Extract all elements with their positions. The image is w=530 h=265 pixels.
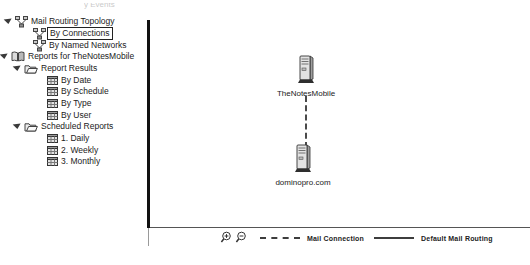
report-icon bbox=[47, 157, 58, 166]
tree-item-label: Mail Routing Topology bbox=[31, 16, 114, 27]
report-icon bbox=[47, 87, 58, 96]
server-node-dominopro[interactable]: dominopro.com bbox=[243, 143, 363, 187]
tree-item-reports-for-thenotesmobile[interactable]: Reports for TheNotesMobile bbox=[0, 51, 134, 62]
mail-connection-line bbox=[305, 96, 307, 148]
tree-item-label: 1. Daily bbox=[61, 133, 89, 144]
report-icon bbox=[47, 134, 58, 143]
server-icon bbox=[246, 54, 366, 88]
twisty-expanded-icon[interactable] bbox=[13, 65, 22, 71]
server-node-label: TheNotesMobile bbox=[246, 89, 366, 98]
map-legend: Mail Connection Default Mail Routing bbox=[220, 230, 493, 246]
folder-icon bbox=[24, 122, 38, 132]
tree-item-by-named-networks[interactable]: By Named Networks bbox=[0, 40, 126, 51]
default-mail-routing-label: Default Mail Routing bbox=[421, 235, 493, 242]
zoom-out-icon[interactable] bbox=[235, 231, 248, 245]
tree-item-label: By Type bbox=[61, 98, 92, 109]
tree-item-by-type[interactable]: By Type bbox=[0, 98, 92, 109]
tree-item-1-daily[interactable]: 1. Daily bbox=[0, 133, 89, 144]
report-icon bbox=[47, 111, 58, 120]
tree-item-scheduled-reports[interactable]: Scheduled Reports bbox=[0, 121, 113, 132]
default-mail-routing-sample-line bbox=[374, 237, 414, 239]
twisty-expanded-icon[interactable] bbox=[0, 53, 8, 59]
tree-item-label: Scheduled Reports bbox=[41, 121, 113, 132]
report-icon bbox=[47, 146, 58, 155]
zoom-in-icon[interactable] bbox=[220, 231, 233, 245]
mail-connection-label: Mail Connection bbox=[307, 235, 364, 242]
tree-item-label: By Schedule bbox=[61, 86, 109, 97]
tree-item-label: Reports for TheNotesMobile bbox=[28, 51, 134, 62]
tree-item-label: By Named Networks bbox=[49, 40, 126, 51]
mail-routing-topology-window: y Events Mail Routing Topology By Connec… bbox=[0, 0, 530, 265]
server-icon bbox=[243, 143, 363, 177]
pane-divider-lower bbox=[148, 228, 149, 246]
folder-icon bbox=[24, 64, 38, 74]
tree-item-label: By Date bbox=[61, 75, 91, 86]
mail-connection-sample-line bbox=[260, 237, 300, 239]
tree-item-by-user[interactable]: By User bbox=[0, 110, 91, 121]
tree-item-by-date[interactable]: By Date bbox=[0, 75, 91, 86]
tree-item-by-schedule[interactable]: By Schedule bbox=[0, 86, 109, 97]
tree-item-label: 2. Weekly bbox=[61, 145, 98, 156]
map-legend-separator bbox=[150, 227, 530, 228]
tree-item-report-results[interactable]: Report Results bbox=[0, 63, 97, 74]
tree-item-3-monthly[interactable]: 3. Monthly bbox=[0, 156, 100, 167]
tree-item-label: 3. Monthly bbox=[61, 156, 100, 167]
topology-icon bbox=[33, 28, 46, 40]
twisty-expanded-icon[interactable] bbox=[13, 123, 22, 129]
tree-item-label: Report Results bbox=[41, 63, 97, 74]
twisty-expanded-icon[interactable] bbox=[4, 18, 13, 24]
report-icon bbox=[47, 99, 58, 108]
report-icon bbox=[47, 76, 58, 85]
tree-item-mail-routing-topology[interactable]: Mail Routing Topology bbox=[0, 16, 114, 27]
server-node-label: dominopro.com bbox=[243, 178, 363, 187]
pane-divider[interactable] bbox=[147, 20, 150, 228]
tree-item-label-selected: By Connections bbox=[47, 27, 113, 40]
tree-item-label: By User bbox=[61, 110, 91, 121]
book-icon bbox=[11, 51, 25, 62]
tree-item-by-connections[interactable]: By Connections bbox=[0, 28, 113, 39]
server-node-thenotesmobile[interactable]: TheNotesMobile bbox=[246, 54, 366, 98]
topology-icon bbox=[33, 40, 46, 52]
clipped-tree-row: y Events bbox=[84, 3, 115, 14]
tree-item-2-weekly[interactable]: 2. Weekly bbox=[0, 145, 98, 156]
topology-icon bbox=[15, 16, 28, 28]
clipped-tree-row-label: y Events bbox=[84, 3, 115, 9]
